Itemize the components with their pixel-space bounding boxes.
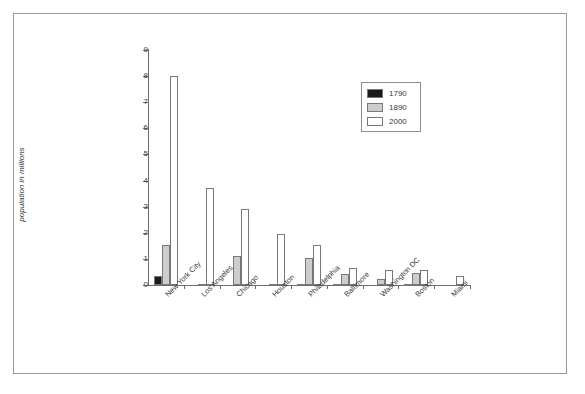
bar xyxy=(162,245,170,285)
legend-label: 1790 xyxy=(389,89,407,98)
y-tick-label-wrap: 0 xyxy=(120,281,148,289)
x-tick-mark xyxy=(398,285,399,289)
y-tick-label: 7 xyxy=(130,98,148,106)
y-tick-label-wrap: 2 xyxy=(120,229,148,237)
bar xyxy=(241,209,249,285)
page-canvas: 0123456789 population in millions New Yo… xyxy=(0,0,585,394)
y-tick-label: 2 xyxy=(130,229,148,237)
bar xyxy=(206,188,214,285)
bar xyxy=(154,276,162,285)
x-axis-label: Miami xyxy=(450,279,470,299)
chart-legend: 179018902000 xyxy=(361,82,421,132)
y-tick-label: 3 xyxy=(130,203,148,211)
legend-entry: 1790 xyxy=(367,88,407,99)
x-tick-mark xyxy=(255,285,256,289)
bar xyxy=(341,274,349,285)
legend-label: 2000 xyxy=(389,117,407,126)
y-tick-label-wrap: 9 xyxy=(120,46,148,54)
y-tick-label-wrap: 4 xyxy=(120,177,148,185)
legend-swatch xyxy=(367,103,383,112)
y-tick-label-wrap: 1 xyxy=(120,255,148,263)
bar xyxy=(305,258,313,285)
y-tick-label: 4 xyxy=(130,177,148,185)
x-tick-mark xyxy=(184,285,185,289)
legend-entry: 2000 xyxy=(367,116,407,127)
y-tick-label-wrap: 7 xyxy=(120,98,148,106)
y-tick-label: 5 xyxy=(130,150,148,158)
legend-swatch xyxy=(367,117,383,126)
x-tick-mark xyxy=(470,285,471,289)
y-axis-title: population in millions xyxy=(17,130,26,240)
x-tick-mark xyxy=(220,285,221,289)
bar-chart: 0123456789 population in millions New Yo… xyxy=(0,0,585,394)
y-tick-label-wrap: 6 xyxy=(120,124,148,132)
legend-label: 1890 xyxy=(389,103,407,112)
bar xyxy=(333,284,341,286)
y-tick-label: 9 xyxy=(130,46,148,54)
y-tick-label-wrap: 3 xyxy=(120,203,148,211)
bar xyxy=(377,279,385,285)
y-tick-label: 8 xyxy=(130,72,148,80)
y-tick-label: 6 xyxy=(130,124,148,132)
y-tick-label-wrap: 5 xyxy=(120,150,148,158)
x-tick-mark xyxy=(434,285,435,289)
bar xyxy=(297,284,305,286)
x-tick-mark xyxy=(291,285,292,289)
x-tick-mark xyxy=(363,285,364,289)
bar xyxy=(404,284,412,286)
bar xyxy=(170,76,178,285)
y-axis-line xyxy=(148,49,149,286)
bar xyxy=(412,273,420,285)
y-tick-label: 0 xyxy=(130,281,148,289)
legend-swatch xyxy=(367,89,383,98)
x-tick-mark xyxy=(327,285,328,289)
legend-entry: 1890 xyxy=(367,102,407,113)
y-tick-label-wrap: 8 xyxy=(120,72,148,80)
y-tick-label: 1 xyxy=(130,255,148,263)
bar xyxy=(233,256,241,285)
